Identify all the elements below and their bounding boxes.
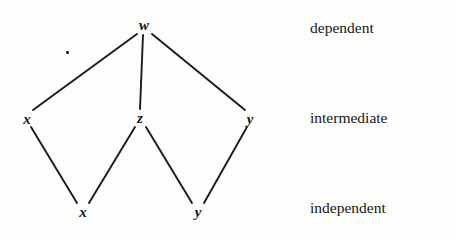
tier-label-independent: independent: [310, 200, 386, 216]
graph-edge-x-to-x: [31, 127, 77, 203]
graph-edge-w-to-x: [33, 34, 137, 110]
graph-edge-y-to-y: [204, 127, 247, 203]
tier-label-intermediate: intermediate: [310, 110, 387, 126]
graph-node-y-intermediate: y: [247, 112, 254, 127]
graph-edge-z-to-x: [89, 127, 135, 203]
graph-node-x-intermediate: x: [23, 112, 31, 127]
mark-stray-speck: [66, 51, 69, 54]
graph-edge-z-to-y: [146, 127, 192, 203]
graph-node-z-intermediate: z: [137, 111, 143, 126]
graph-node-x-independent: x: [79, 205, 87, 220]
graph-node-w-dependent: w: [139, 18, 149, 33]
graph-edge-w-to-z: [140, 35, 143, 109]
path-diagram-figure: wxzyxy dependentintermediateindependent: [0, 0, 456, 239]
tier-label-dependent: dependent: [310, 20, 374, 36]
graph-edges: [0, 0, 456, 239]
graph-edge-w-to-y: [152, 34, 245, 110]
graph-node-y-independent: y: [195, 205, 202, 220]
